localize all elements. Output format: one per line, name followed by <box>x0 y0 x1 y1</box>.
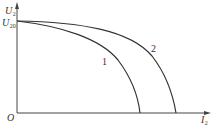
origin-label: O <box>7 113 14 123</box>
y-intercept-label: U20 <box>2 18 16 29</box>
curve-1-label: 1 <box>102 57 107 67</box>
y-intercept-label-main: U <box>2 17 9 28</box>
y-axis-label-sub: 2 <box>13 11 16 17</box>
y-intercept-label-sub: 20 <box>10 23 16 29</box>
x-axis-label-sub: 2 <box>205 120 208 126</box>
y-axis-label-main: U <box>5 5 12 16</box>
x-axis-label: I2 <box>201 115 208 126</box>
curve-2-label: 2 <box>151 44 156 54</box>
diagram-canvas <box>0 0 218 132</box>
curve-2 <box>17 21 176 113</box>
x-axis-label-main: I <box>201 114 204 125</box>
y-axis-label: U2 <box>5 6 16 17</box>
external-characteristic-diagram: U2 U20 O I2 1 2 <box>0 0 218 132</box>
curve-1 <box>17 21 140 113</box>
